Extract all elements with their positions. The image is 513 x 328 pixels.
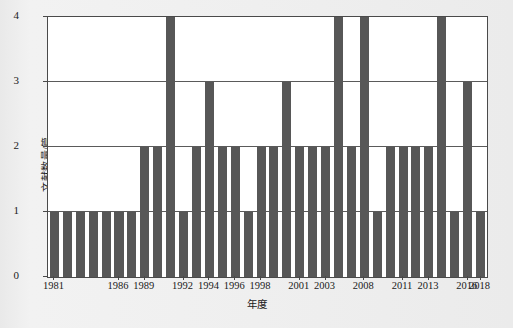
x-tick-label-1996: 1996	[224, 281, 245, 292]
bar	[282, 82, 291, 277]
x-tick-mark-2001	[299, 276, 300, 280]
bar	[244, 212, 253, 277]
bar	[218, 147, 227, 277]
y-tick-label-2: 2	[0, 140, 19, 151]
x-tick-label-2008: 2008	[353, 281, 374, 292]
bar	[373, 212, 382, 277]
bar	[360, 17, 369, 277]
y-tick-label-3: 3	[0, 75, 19, 86]
x-tick-mark-1996	[234, 276, 235, 280]
bar	[450, 212, 459, 277]
x-tick-mark-1992	[183, 276, 184, 280]
bar	[140, 147, 149, 277]
x-tick-label-2003: 2003	[314, 281, 335, 292]
bar	[50, 212, 59, 277]
x-tick-label-1992: 1992	[172, 281, 193, 292]
chart-figure: 文献数量/篇 01234 198119861989199219941996199…	[0, 0, 513, 328]
bar	[153, 147, 162, 277]
x-tick-mark-1986	[118, 276, 119, 280]
bar	[308, 147, 317, 277]
bar	[63, 212, 72, 277]
x-tick-mark-2011	[402, 276, 403, 280]
bar	[295, 147, 304, 277]
x-tick-mark-1994	[208, 276, 209, 280]
x-tick-label-2001: 2001	[288, 281, 309, 292]
bar	[192, 147, 201, 277]
x-tick-mark-2013	[428, 276, 429, 280]
x-tick-mark-1989	[144, 276, 145, 280]
bar	[386, 147, 395, 277]
x-tick-mark-2008	[363, 276, 364, 280]
bar	[334, 17, 343, 277]
x-tick-mark-2018	[480, 276, 481, 280]
bar	[347, 147, 356, 277]
x-tick-label-1989: 1989	[133, 281, 154, 292]
bar	[231, 147, 240, 277]
bar	[411, 147, 420, 277]
x-tick-mark-2016	[467, 276, 468, 280]
y-tick-label-1: 1	[0, 205, 19, 216]
bar	[205, 82, 214, 277]
bar	[399, 147, 408, 277]
bar	[76, 212, 85, 277]
bar	[321, 147, 330, 277]
y-tick-label-4: 4	[0, 10, 19, 21]
plot-area	[47, 16, 488, 278]
x-tick-label-2018: 2018	[469, 281, 490, 292]
bar	[114, 212, 123, 277]
x-tick-label-1994: 1994	[198, 281, 219, 292]
bar	[102, 212, 111, 277]
x-tick-label-1981: 1981	[43, 281, 64, 292]
bar	[424, 147, 433, 277]
bar-series	[48, 17, 487, 277]
bar	[269, 147, 278, 277]
bar	[127, 212, 136, 277]
x-tick-mark-1998	[260, 276, 261, 280]
bar	[166, 17, 175, 277]
x-tick-mark-2003	[325, 276, 326, 280]
x-tick-label-2013: 2013	[417, 281, 438, 292]
x-tick-label-1998: 1998	[250, 281, 271, 292]
bar	[476, 212, 485, 277]
bar	[437, 17, 446, 277]
x-tick-mark-1981	[53, 276, 54, 280]
bar	[463, 82, 472, 277]
x-axis-title: 年度	[0, 296, 513, 311]
x-tick-label-2011: 2011	[392, 281, 413, 292]
bar	[179, 212, 188, 277]
bar	[89, 212, 98, 277]
bar	[257, 147, 266, 277]
x-tick-label-1986: 1986	[108, 281, 129, 292]
y-tick-label-0: 0	[0, 270, 19, 281]
